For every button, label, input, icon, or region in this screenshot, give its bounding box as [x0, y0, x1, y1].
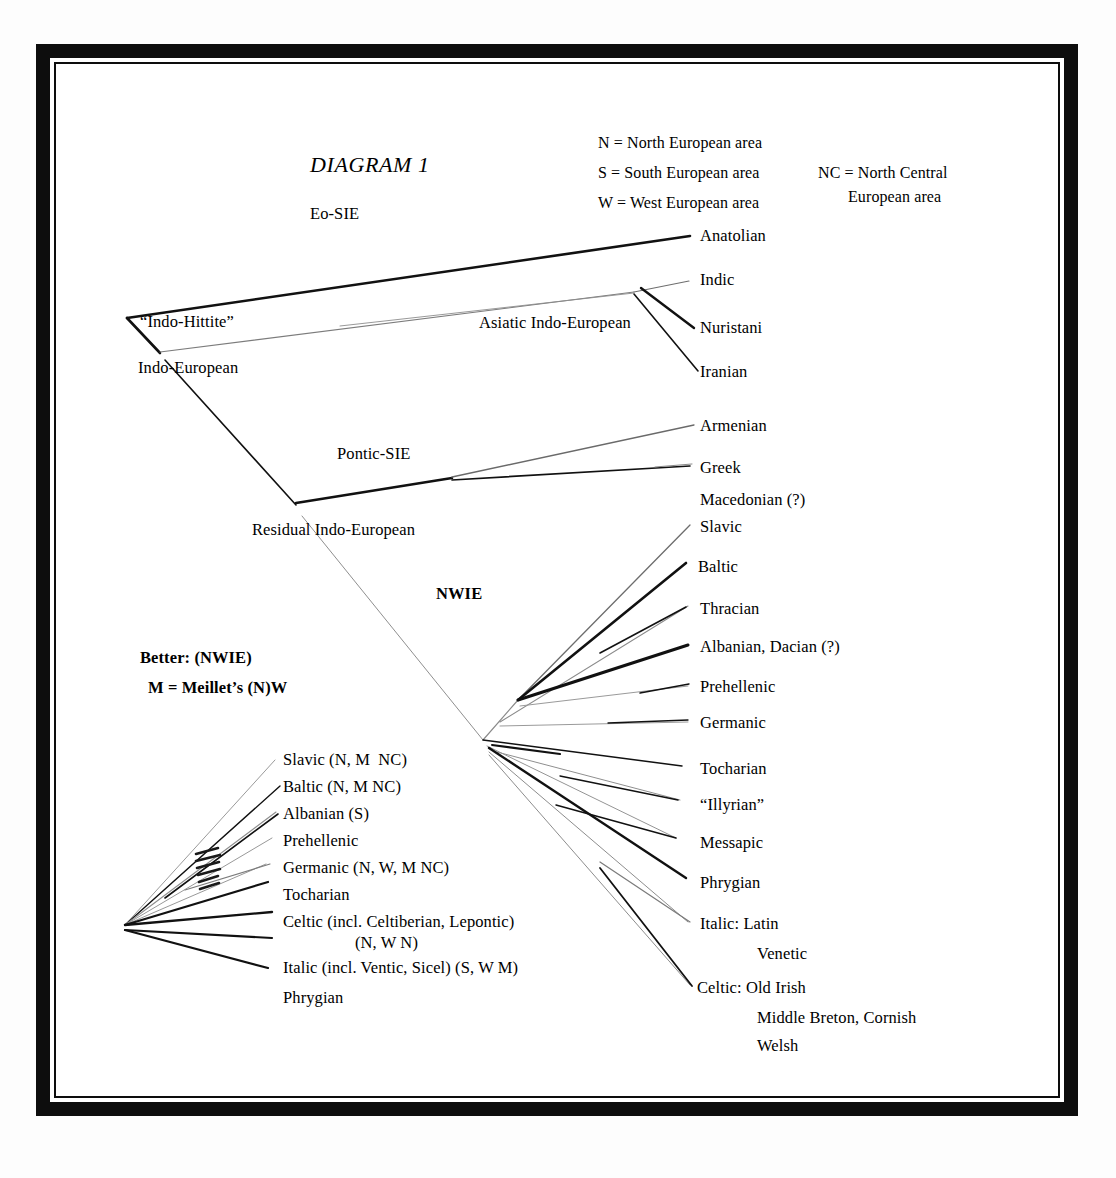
leaf-italic-left: Italic (incl. Ventic, Sicel) (S, W M) — [283, 958, 518, 977]
node-indo-european: Indo-European — [138, 358, 238, 377]
node-residual-indo-european: Residual Indo-European — [252, 520, 415, 539]
leaf-celtic-old-irish: Celtic: Old Irish — [697, 978, 806, 997]
leaf-phrygian-left: Phrygian — [283, 988, 343, 1007]
leaf-middle-breton-cornish: Middle Breton, Cornish — [757, 1008, 916, 1027]
node-eo-sie: Eo-SIE — [310, 204, 359, 223]
page-title: DIAGRAM 1 — [310, 152, 430, 178]
leaf-albanian-left: Albanian (S) — [283, 804, 369, 823]
leaf-nuristani: Nuristani — [700, 318, 762, 337]
leaf-tocharian-left: Tocharian — [283, 885, 350, 904]
legend-item-south: S = South European area — [598, 164, 760, 183]
node-pontic-sie: Pontic-SIE — [337, 444, 410, 463]
leaf-baltic-left: Baltic (N, M NC) — [283, 777, 401, 796]
note-better-nwie: Better: (NWIE) — [140, 648, 252, 667]
legend-item-west: W = West European area — [598, 194, 759, 213]
node-nwie: NWIE — [436, 584, 482, 603]
leaf-tocharian-right: Tocharian — [700, 759, 767, 778]
leaf-armenian: Armenian — [700, 416, 767, 435]
leaf-welsh: Welsh — [757, 1036, 798, 1055]
leaf-venetic: Venetic — [757, 944, 807, 963]
leaf-illyrian: “Illyrian” — [700, 795, 764, 814]
legend-item-north-central-cont: European area — [848, 188, 941, 207]
leaf-iranian: Iranian — [700, 362, 747, 381]
leaf-slavic-left: Slavic (N, M NC) — [283, 750, 407, 769]
leaf-indic: Indic — [700, 270, 734, 289]
leaf-anatolian: Anatolian — [700, 226, 766, 245]
leaf-germanic-left: Germanic (N, W, M NC) — [283, 858, 449, 877]
node-indo-hittite: “Indo-Hittite” — [140, 312, 234, 331]
leaf-macedonian: Macedonian (?) — [700, 490, 805, 509]
leaf-greek: Greek — [700, 458, 741, 477]
diagram-inner-frame — [54, 62, 1060, 1098]
node-asiatic-indo-european: Asiatic Indo-European — [479, 313, 631, 332]
leaf-celtic-left-cont: (N, W N) — [355, 933, 418, 952]
leaf-slavic-right: Slavic — [700, 517, 742, 536]
leaf-albanian-dacian: Albanian, Dacian (?) — [700, 637, 840, 656]
leaf-prehellenic-left: Prehellenic — [283, 831, 358, 850]
leaf-messapic: Messapic — [700, 833, 763, 852]
leaf-prehellenic-right: Prehellenic — [700, 677, 775, 696]
leaf-phrygian-right: Phrygian — [700, 873, 760, 892]
leaf-thracian: Thracian — [700, 599, 759, 618]
legend-item-north-central: NC = North Central — [818, 164, 947, 183]
note-meillet: M = Meillet’s (N)W — [148, 678, 287, 697]
legend-item-north: N = North European area — [598, 134, 762, 153]
leaf-italic-latin: Italic: Latin — [700, 914, 779, 933]
leaf-germanic-right: Germanic — [700, 713, 766, 732]
leaf-celtic-left: Celtic (incl. Celtiberian, Lepontic) — [283, 912, 514, 931]
leaf-baltic-right: Baltic — [698, 557, 738, 576]
page-background: DIAGRAM 1 N = North European area S = So… — [0, 0, 1116, 1178]
